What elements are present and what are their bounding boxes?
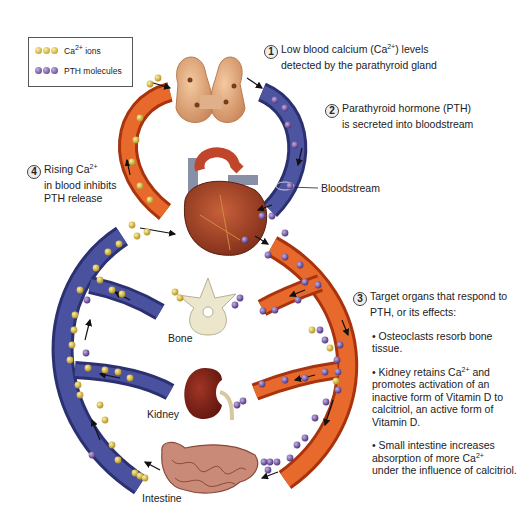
ca-ion	[177, 295, 184, 302]
ca-ion	[129, 159, 136, 166]
kidney	[184, 368, 232, 420]
ca-ion	[115, 457, 122, 464]
ca-ion	[147, 197, 154, 204]
pth-molecule	[83, 350, 90, 357]
ca-ion	[327, 345, 334, 352]
pth-molecule	[274, 459, 281, 466]
pth-molecule	[302, 435, 309, 442]
pth-molecule	[287, 455, 294, 462]
pth-molecule	[272, 307, 279, 314]
pth-molecule	[282, 105, 289, 112]
pth-molecule	[267, 459, 274, 466]
pth-molecule	[89, 452, 96, 459]
pth-molecule	[282, 230, 289, 237]
ca-ion	[102, 417, 109, 424]
step-number-badge: 4	[27, 165, 41, 179]
pth-molecule	[287, 183, 294, 190]
ca-ion	[133, 137, 140, 144]
pth-molecule	[295, 297, 302, 304]
pth-molecule	[260, 308, 267, 315]
pth-molecule	[265, 467, 272, 474]
legend: Ca2+ ions PTH molecules	[28, 37, 133, 87]
ca-ion	[142, 475, 149, 482]
ca-ion	[137, 183, 144, 190]
pth-molecule	[302, 375, 309, 382]
pth-molecule	[234, 402, 241, 409]
intestine	[162, 442, 258, 493]
pth-molecule	[322, 337, 329, 344]
ca-ion	[137, 115, 144, 122]
pth-molecule	[334, 357, 341, 364]
ca-ion	[93, 265, 100, 272]
ca-ion	[116, 241, 123, 248]
step-2: 2Parathyroid hormone (PTH) is secreted i…	[325, 102, 473, 131]
pth-molecule	[294, 442, 301, 449]
ca-ion	[77, 287, 84, 294]
parathyroid-gland	[176, 57, 245, 122]
ca-ion	[71, 327, 78, 334]
ca-ion	[102, 367, 109, 374]
pth-molecule	[335, 387, 342, 394]
step-number-badge: 3	[353, 292, 367, 306]
ca-ion	[109, 287, 116, 294]
pth-molecule	[272, 97, 279, 104]
pth-molecule	[317, 327, 324, 334]
step-1: 1Low blood calcium (Ca2+) levels detecte…	[264, 43, 437, 72]
pth-molecule	[315, 282, 322, 289]
step-number-badge: 2	[325, 104, 339, 118]
pth-molecule	[312, 415, 319, 422]
legend-pth-label: PTH molecules	[64, 66, 122, 76]
ca-ion	[75, 382, 82, 389]
legend-ca-label: Ca2+ ions	[64, 46, 101, 56]
pth-molecule	[259, 381, 266, 388]
bone-vertebra	[178, 278, 236, 335]
intestine-label: Intestine	[142, 492, 182, 505]
pth-molecule	[322, 369, 329, 376]
ca-ion	[172, 289, 179, 296]
step-number-badge: 1	[264, 45, 278, 59]
ca-ion	[127, 375, 134, 382]
ca-ion	[67, 357, 74, 364]
legend-pth-row: PTH molecules	[35, 66, 122, 76]
pth-molecule	[282, 377, 289, 384]
ca-ion	[144, 229, 151, 236]
legend-ca-row: Ca2+ ions	[35, 46, 101, 56]
ca-ion	[129, 222, 136, 229]
pth-molecule	[323, 399, 330, 406]
pth-molecule	[269, 213, 276, 220]
ca-ion	[85, 365, 92, 372]
ca-ion	[109, 442, 116, 449]
pth-molecule	[265, 252, 272, 259]
ca-ion	[77, 392, 84, 399]
pth-molecule	[337, 342, 344, 349]
heart	[184, 152, 266, 255]
ca-ion	[309, 327, 316, 334]
pth-molecule-icon	[35, 66, 59, 76]
pth-molecule	[240, 398, 247, 405]
step-4: 4Rising Ca2+ in blood inhibits PTH relea…	[27, 163, 116, 204]
ca-ion	[155, 75, 162, 82]
pth-molecule	[302, 279, 309, 286]
ca-ion	[147, 81, 154, 88]
pth-molecule	[297, 262, 304, 269]
ca-ion	[333, 378, 340, 385]
effect-intestine: • Small intestine increases absorption o…	[370, 439, 529, 477]
pth-molecule	[292, 142, 299, 149]
ca-ion	[105, 249, 112, 256]
effect-kidney: • Kidney retains Ca2+ and promotes activ…	[370, 366, 529, 429]
ca-ion	[115, 369, 122, 376]
pth-molecule	[84, 297, 91, 304]
bloodstream-label: Bloodstream	[321, 182, 380, 195]
kidney-label: Kidney	[147, 408, 179, 421]
pth-molecule	[285, 122, 292, 129]
pth-molecule	[232, 302, 239, 309]
pth-molecule	[237, 295, 244, 302]
ca-ion	[134, 233, 141, 240]
pth-molecule	[282, 254, 289, 261]
ca-ion	[119, 291, 126, 298]
ca-ion	[72, 312, 79, 319]
pth-molecule	[242, 237, 249, 244]
step-3: 3Target organs that respond to PTH, or i…	[353, 290, 529, 477]
pth-molecule	[259, 213, 266, 220]
ca-ion	[97, 402, 104, 409]
